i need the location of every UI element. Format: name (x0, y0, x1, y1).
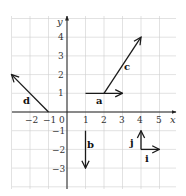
x-tick: 1 (83, 115, 89, 125)
x-tick: 3 (119, 115, 125, 125)
y-tick: −1 (52, 126, 65, 136)
y-tick: −3 (52, 164, 66, 174)
vector-b-label: b (87, 139, 94, 150)
x-tick: 2 (101, 115, 107, 125)
x-tick-labels: −2 −1 0 1 2 3 4 5 (25, 115, 162, 125)
x-axis-label: x (170, 114, 176, 125)
vector-i-label: i (145, 153, 149, 164)
x-tick: 5 (156, 115, 162, 125)
y-tick: 2 (58, 70, 64, 80)
x-tick: 0 (59, 115, 65, 125)
x-tick: 4 (137, 115, 143, 125)
vector-j-label: j (129, 137, 134, 148)
y-tick: 1 (58, 88, 64, 98)
y-tick: 4 (58, 32, 64, 42)
vector-d-label: d (23, 95, 30, 106)
y-axis-label: y (56, 16, 63, 27)
x-tick: −2 (25, 115, 38, 125)
grid (12, 16, 177, 189)
y-tick: 3 (58, 51, 64, 61)
y-tick-labels: 4 3 2 1 −1 −2 −3 (52, 32, 66, 174)
vector-a-label: a (96, 95, 103, 106)
y-tick: −2 (52, 145, 65, 155)
vector-c-label: c (124, 61, 130, 72)
x-tick: −1 (43, 115, 56, 125)
vector-diagram: x y −2 −1 0 1 2 3 4 5 4 3 2 1 −1 −2 −3 a… (0, 0, 186, 196)
